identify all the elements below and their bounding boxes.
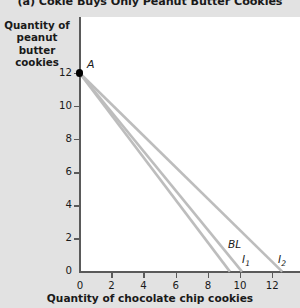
- curve-label-i2: I2: [278, 253, 286, 268]
- y-axis-line: [79, 17, 81, 273]
- x-tick-label-0: 0: [68, 280, 92, 291]
- y-tick-label-8: 8: [54, 133, 72, 144]
- x-tick-2: [111, 272, 112, 278]
- y-tick-label-10: 10: [54, 100, 72, 111]
- point-a-marker: [76, 69, 84, 77]
- y-tick-label-12: 12: [54, 67, 72, 78]
- x-tick-label-10: 10: [228, 280, 252, 291]
- curve-label-i1: I1: [242, 253, 250, 268]
- y-tick-label-6: 6: [54, 166, 72, 177]
- y-tick-2: [74, 238, 80, 239]
- x-tick-label-12: 12: [260, 280, 284, 291]
- point-a-label: A: [87, 58, 95, 71]
- curve-label-i1-sub: 1: [245, 259, 250, 268]
- y-tick-6: [74, 172, 80, 173]
- x-tick-6: [176, 272, 177, 278]
- y-axis-title: Quantity of peanut butter cookies: [0, 19, 74, 69]
- x-tick-label-4: 4: [132, 280, 156, 291]
- x-tick-4: [143, 272, 144, 278]
- y-tick-label-0: 0: [54, 265, 72, 276]
- y-tick-10: [74, 106, 80, 107]
- x-tick-10: [240, 272, 241, 278]
- x-tick-label-2: 2: [100, 280, 124, 291]
- curve-label-bl: BL: [228, 238, 241, 250]
- chart-figure: (a) Cokie Buys Only Peanut Butter Cookie…: [0, 0, 300, 308]
- curve-label-i2-sub: 2: [281, 259, 286, 268]
- x-tick-8: [208, 272, 209, 278]
- x-tick-12: [272, 272, 273, 278]
- chart-title: (a) Cokie Buys Only Peanut Butter Cookie…: [0, 0, 300, 8]
- x-axis-title: Quantity of chocolate chip cookies: [0, 292, 300, 304]
- y-tick-8: [74, 139, 80, 140]
- plot-area: [80, 17, 300, 273]
- y-tick-label-2: 2: [54, 232, 72, 243]
- y-tick-label-4: 4: [54, 199, 72, 210]
- x-tick-label-8: 8: [196, 280, 220, 291]
- x-tick-label-6: 6: [164, 280, 188, 291]
- y-tick-4: [74, 205, 80, 206]
